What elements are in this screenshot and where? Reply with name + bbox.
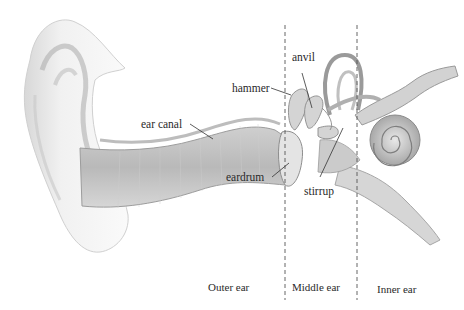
- eardrum-shape: [278, 131, 302, 186]
- label-anvil: anvil: [292, 52, 315, 64]
- eustachian-tube: [335, 165, 440, 245]
- section-middle-ear: Middle ear: [292, 282, 340, 293]
- label-eardrum: eardrum: [226, 172, 264, 184]
- label-stirrup: stirrup: [304, 186, 334, 198]
- cochlea: [370, 115, 420, 166]
- section-outer-ear: Outer ear: [208, 282, 249, 293]
- label-ear-canal: ear canal: [141, 119, 182, 131]
- ear-illustration: [0, 0, 464, 310]
- ear-canal-shape: [80, 119, 290, 208]
- label-hammer: hammer: [232, 83, 270, 95]
- section-inner-ear: Inner ear: [377, 284, 416, 295]
- pinna: [24, 20, 128, 252]
